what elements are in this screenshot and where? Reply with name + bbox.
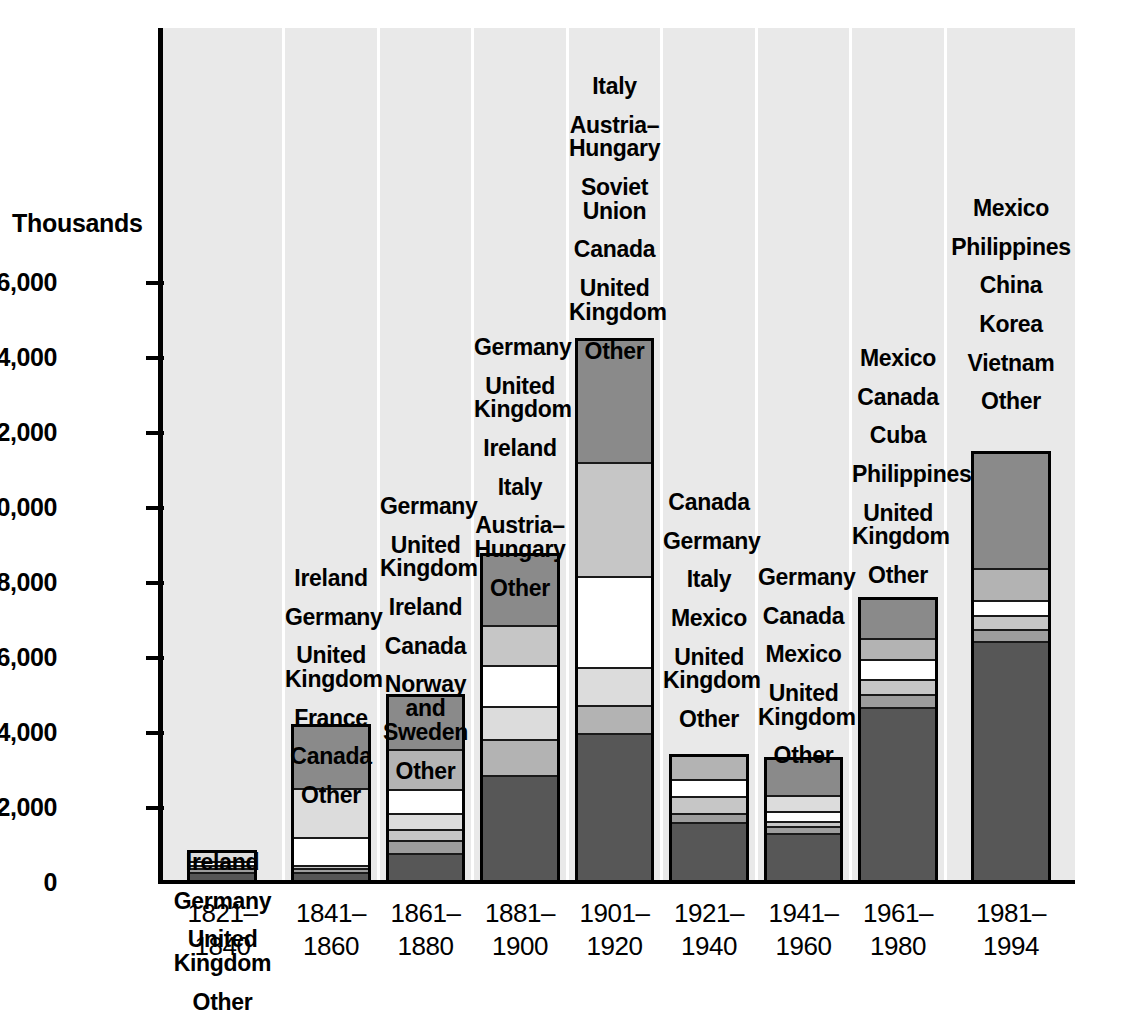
stack-label: Other — [852, 564, 944, 588]
segment-1881-1900-ireland[interactable] — [483, 665, 557, 706]
stack-label: Other — [474, 577, 566, 601]
stack-label: Other — [569, 340, 660, 364]
bar-1961-1980[interactable] — [858, 597, 938, 883]
segment-1881-1900-other[interactable] — [483, 775, 557, 883]
stack-labels-1901-1920: ItalyAustria–HungarySovietUnionCanadaUni… — [569, 75, 660, 363]
segment-1921-1940-germany[interactable] — [672, 754, 746, 780]
stack-label: Other — [380, 760, 471, 784]
x-label-line1: 1921– — [663, 897, 755, 930]
segment-1861-1880-ireland[interactable] — [389, 813, 462, 830]
stack-label: Other — [758, 744, 849, 768]
segment-1961-1980-philippines[interactable] — [861, 679, 935, 694]
stack-label: Mexico — [947, 197, 1075, 221]
segment-1881-1900-austria-hungary[interactable] — [483, 739, 557, 775]
y-axis-line — [158, 28, 163, 884]
stack-label: UnitedKingdom — [758, 682, 849, 729]
segment-1861-1880-united-kingdom[interactable] — [389, 789, 462, 812]
y-axis-title: Thousands — [12, 209, 143, 238]
x-label-line1: 1861– — [380, 897, 471, 930]
stack-label: Italy — [569, 75, 660, 99]
stack-labels-1861-1880: GermanyUnitedKingdomIrelandCanadaNorwaya… — [380, 495, 471, 783]
x-label-1821-1840: 1821–1840 — [163, 897, 282, 964]
stack-label: Cuba — [852, 424, 944, 448]
stack-label: SovietUnion — [569, 176, 660, 223]
segment-1901-1920-canada[interactable] — [578, 667, 651, 705]
stack-label: Canada — [852, 386, 944, 410]
segment-1861-1880-canada[interactable] — [389, 829, 462, 840]
segment-1901-1920-soviet-union[interactable] — [578, 576, 651, 667]
tick-mark-6000 — [146, 656, 164, 660]
segment-1901-1920-other[interactable] — [578, 733, 651, 883]
segment-1921-1940-mexico[interactable] — [672, 796, 746, 814]
segment-1921-1940-italy[interactable] — [672, 779, 746, 796]
tick-mark-12000 — [146, 431, 164, 435]
x-label-line2: 1860 — [285, 930, 377, 963]
segment-1981-1994-philippines[interactable] — [974, 568, 1048, 600]
segment-1941-1960-other[interactable] — [767, 833, 840, 883]
segment-1981-1994-other[interactable] — [974, 641, 1048, 883]
bar-1901-1920[interactable] — [575, 338, 654, 883]
segment-1941-1960-united-kingdom[interactable] — [767, 826, 840, 834]
segment-1841-1860-united-kingdom[interactable] — [294, 837, 368, 865]
stack-label: Canada — [663, 491, 755, 515]
tick-mark-8000 — [146, 581, 164, 585]
segment-1981-1994-china[interactable] — [974, 600, 1048, 615]
bar-1941-1960[interactable] — [764, 757, 843, 883]
stack-labels-1841-1860: IrelandGermanyUnitedKingdomFranceCanadaO… — [285, 567, 377, 808]
x-label-1941-1960: 1941–1960 — [758, 897, 849, 964]
segment-1921-1940-united-kingdom[interactable] — [672, 813, 746, 822]
stack-label: Ireland — [285, 567, 377, 591]
segment-1941-1960-canada[interactable] — [767, 811, 840, 821]
bar-1981-1994[interactable] — [971, 451, 1051, 883]
x-label-1881-1900: 1881–1900 — [474, 897, 566, 964]
segment-1901-1920-united-kingdom[interactable] — [578, 705, 651, 734]
segment-1961-1980-other[interactable] — [861, 707, 935, 883]
stack-label: Korea — [947, 313, 1075, 337]
stack-label: Austria–Hungary — [474, 514, 566, 561]
stack-label: Canada — [380, 635, 471, 659]
stack-label: Other — [663, 708, 755, 732]
bar-1881-1900[interactable] — [480, 553, 560, 883]
x-label-line2: 1994 — [947, 930, 1075, 963]
x-label-line2: 1900 — [474, 930, 566, 963]
segment-1961-1980-mexico[interactable] — [861, 597, 935, 638]
tick-label-12000: 12,000 — [0, 418, 57, 447]
stack-label: Austria–Hungary — [569, 114, 660, 161]
segment-1921-1940-other[interactable] — [672, 822, 746, 883]
stack-label: Other — [285, 784, 377, 808]
segment-1961-1980-cuba[interactable] — [861, 659, 935, 679]
stack-label: UnitedKingdom — [852, 502, 944, 549]
segment-1901-1920-austria-hungary[interactable] — [578, 462, 651, 577]
stack-label: NorwayandSweden — [380, 673, 471, 744]
x-label-line2: 1960 — [758, 930, 849, 963]
segment-1861-1880-other[interactable] — [389, 853, 462, 883]
stack-label: Canada — [285, 745, 377, 769]
tick-mark-14000 — [146, 356, 164, 360]
x-label-line1: 1841– — [285, 897, 377, 930]
x-label-line2: 1880 — [380, 930, 471, 963]
stack-label: Other — [947, 390, 1075, 414]
tick-label-10000: 10,000 — [0, 493, 57, 522]
segment-1941-1960-germany-a[interactable] — [767, 795, 840, 811]
segment-1961-1980-canada[interactable] — [861, 638, 935, 659]
segment-1881-1900-united-kingdom[interactable] — [483, 625, 557, 666]
x-label-1841-1860: 1841–1860 — [285, 897, 377, 964]
tick-label-0: 0 — [43, 868, 57, 897]
segment-1961-1980-united-kingdom[interactable] — [861, 694, 935, 706]
x-label-line1: 1981– — [947, 897, 1075, 930]
x-label-line1: 1901– — [569, 897, 660, 930]
segment-1881-1900-italy[interactable] — [483, 706, 557, 740]
stack-label: Italy — [663, 568, 755, 592]
segment-1981-1994-mexico[interactable] — [974, 451, 1048, 568]
x-label-1901-1920: 1901–1920 — [569, 897, 660, 964]
stack-label: Philippines — [947, 236, 1075, 260]
stack-label: Germany — [380, 495, 471, 519]
stack-label: UnitedKingdom — [663, 646, 755, 693]
segment-1861-1880-norway-and-sweden[interactable] — [389, 840, 462, 853]
bar-1921-1940[interactable] — [669, 754, 749, 883]
segment-1981-1994-vietnam[interactable] — [974, 629, 1048, 641]
x-label-line1: 1821– — [163, 897, 282, 930]
stack-label: Germany — [285, 606, 377, 630]
segment-1981-1994-korea[interactable] — [974, 615, 1048, 629]
stack-labels-1881-1900: GermanyUnitedKingdomIrelandItalyAustria–… — [474, 336, 566, 601]
